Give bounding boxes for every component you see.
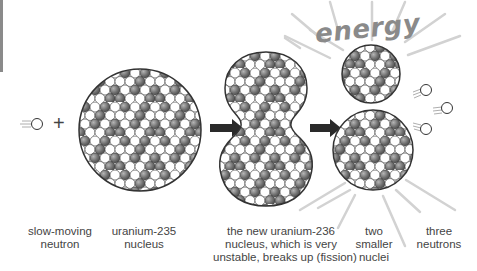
smaller-nucleus-bottom-graphic: [332, 108, 416, 192]
label-smaller-nuclei: two smaller nuclei: [352, 225, 396, 264]
label-line: nucleus: [105, 238, 183, 251]
label-line: unstable, breaks up (fission): [213, 251, 349, 264]
three-neutrons-graphic: [413, 85, 453, 135]
label-slow-neutron: slow-moving neutron: [20, 225, 100, 251]
label-line: two: [352, 225, 396, 238]
label-line: nucleus, which is very: [213, 238, 349, 251]
label-uranium-235: uranium-235 nucleus: [105, 225, 183, 251]
slow-neutron-graphic: [20, 119, 43, 130]
label-three-neutrons: three neutrons: [408, 225, 470, 251]
label-line: the new uranium-236: [213, 225, 349, 238]
label-line: neutrons: [408, 238, 470, 251]
label-line: neutron: [20, 238, 100, 251]
fission-diagram: energy: [0, 0, 477, 271]
uranium-235-nucleus-graphic: [75, 65, 205, 195]
smaller-nucleus-top-graphic: [340, 44, 402, 106]
plus-sign: +: [53, 113, 65, 133]
label-line: slow-moving: [20, 225, 100, 238]
label-uranium-236: the new uranium-236 nucleus, which is ve…: [213, 225, 349, 264]
label-line: smaller: [352, 238, 396, 251]
label-line: uranium-235: [105, 225, 183, 238]
label-line: nuclei: [352, 251, 396, 264]
label-line: three: [408, 225, 470, 238]
